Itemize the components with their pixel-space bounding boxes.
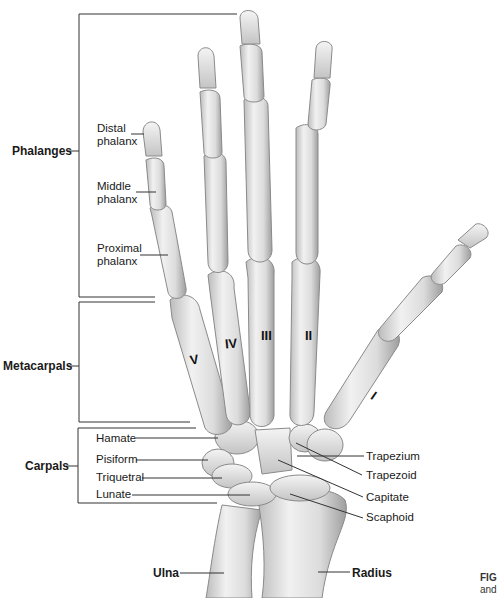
numeral-iii: III (261, 328, 272, 343)
figure-caption-fragment: FIG and (480, 572, 497, 596)
label-lunate: Lunate (96, 488, 131, 501)
label-carpals: Carpals (25, 459, 69, 473)
numeral-iv: IV (224, 335, 238, 351)
label-distal-phalanx: Distal phalanx (97, 122, 137, 148)
label-scaphoid: Scaphoid (366, 511, 414, 524)
label-middle-phalanx: Middle phalanx (97, 180, 137, 206)
numeral-v: V (189, 351, 200, 367)
label-trapezium: Trapezium (366, 450, 420, 463)
label-capitate: Capitate (366, 491, 409, 504)
label-metacarpals: Metacarpals (3, 359, 72, 373)
label-pisiform: Pisiform (96, 453, 138, 466)
label-trapezoid: Trapezoid (366, 469, 417, 482)
label-ulna: Ulna (153, 566, 179, 580)
numeral-ii: II (305, 328, 312, 343)
label-phalanges: Phalanges (12, 144, 72, 158)
label-proximal-phalanx: Proximal phalanx (97, 242, 142, 268)
label-hamate: Hamate (96, 432, 136, 445)
label-radius: Radius (352, 566, 392, 580)
label-triquetral: Triquetral (96, 471, 144, 484)
